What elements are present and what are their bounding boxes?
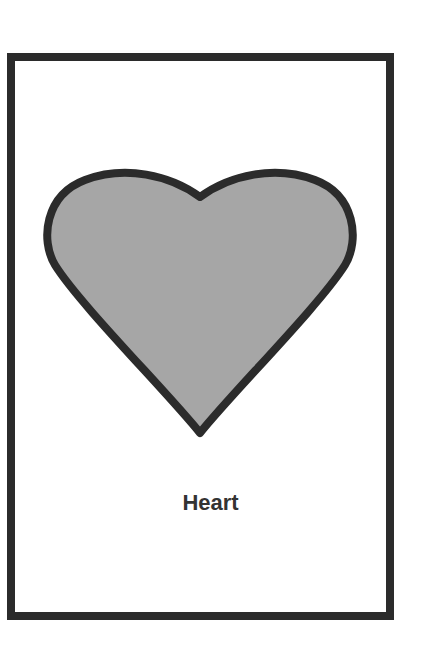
heart-icon bbox=[0, 0, 421, 666]
shape-label: Heart bbox=[0, 490, 421, 516]
